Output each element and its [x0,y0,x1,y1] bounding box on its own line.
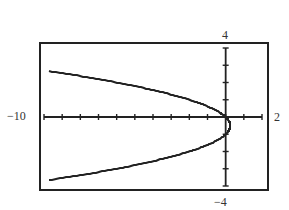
xmin-label: −10 [7,110,26,122]
axes [44,48,262,186]
parabola-curve [49,71,230,180]
ymin-label: −4 [214,196,227,208]
graph-canvas [0,0,289,210]
ymax-label: 4 [222,29,228,41]
xmax-label: 2 [274,111,280,123]
